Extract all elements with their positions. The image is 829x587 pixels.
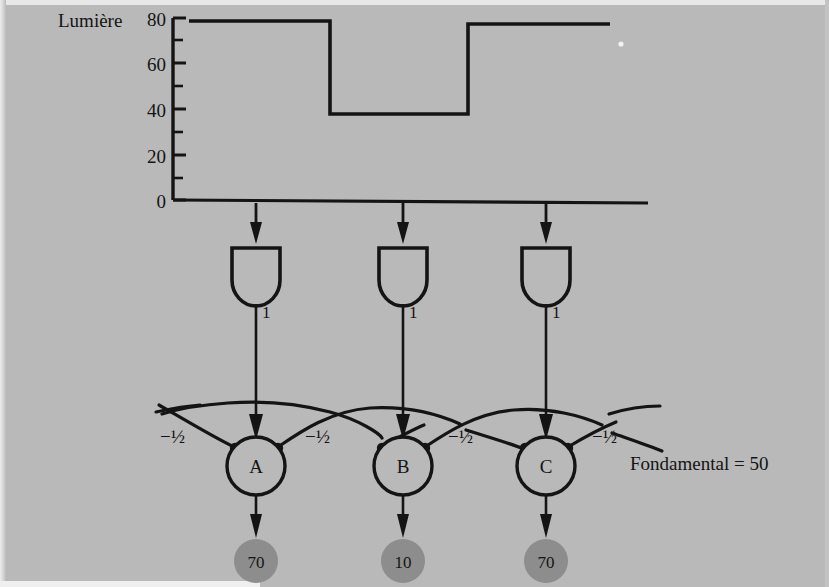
- lateral-weight-3-label: −½: [448, 426, 473, 447]
- gate-b-weight-label: 1: [409, 303, 418, 322]
- y-tick-label-20: 20: [147, 146, 166, 167]
- threshold-gates: [232, 248, 570, 306]
- output-c-label: 70: [538, 553, 555, 572]
- y-axis-major-ticks: [173, 18, 186, 200]
- node-output-arrowheads: [250, 514, 552, 538]
- gate-a-body[interactable]: [232, 248, 280, 306]
- node-a-label: A: [249, 456, 263, 477]
- light-step-waveform: [189, 21, 610, 114]
- gate-b-body[interactable]: [379, 248, 427, 306]
- lateral-weight-4-label: −½: [592, 426, 617, 447]
- y-tick-label-0: 0: [157, 191, 167, 212]
- gate-c-weight-label: 1: [552, 303, 561, 322]
- scan-speck: [618, 41, 623, 46]
- figure-canvas: 80 60 40 20 0 Lumière: [0, 0, 829, 587]
- light-intensity-chart: 80 60 40 20 0 Lumière: [58, 9, 648, 212]
- gate-output-lines: [256, 304, 546, 418]
- output-a-label: 70: [248, 553, 265, 572]
- y-tick-label-60: 60: [147, 54, 166, 75]
- y-axis-title: Lumière: [58, 10, 122, 31]
- lateral-weight-2-label: −½: [305, 426, 330, 447]
- y-tick-label-40: 40: [147, 100, 166, 121]
- node-b-label: B: [397, 456, 410, 477]
- node-c-label: C: [540, 456, 553, 477]
- gate-c-body[interactable]: [522, 248, 570, 306]
- lateral-weight-1-label: −½: [160, 426, 185, 447]
- output-b-label: 10: [395, 553, 412, 572]
- x-axis-line: [173, 200, 648, 203]
- fundamental-annotation: Fondamental = 50: [630, 453, 768, 474]
- output-values: 70 10 70: [234, 539, 568, 583]
- y-tick-label-80: 80: [147, 9, 166, 30]
- diagram-svg: 80 60 40 20 0 Lumière: [0, 0, 829, 587]
- input-arrowheads: [250, 222, 552, 244]
- gate-a-weight-label: 1: [262, 303, 271, 322]
